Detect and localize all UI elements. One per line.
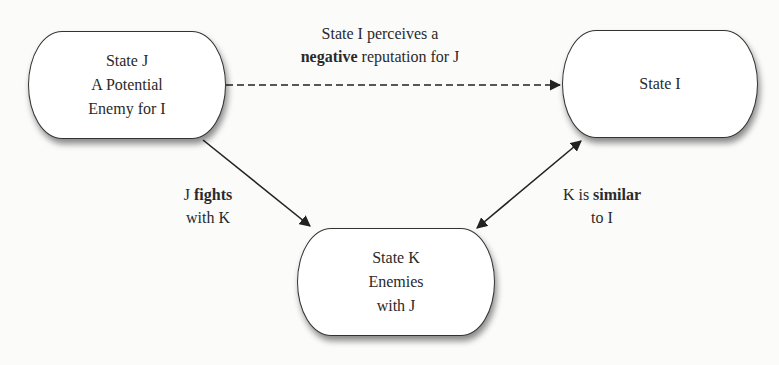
edge-label-j-to-k-line-2: with K <box>168 206 248 229</box>
edge-label-fights: fights <box>194 186 232 203</box>
edge-label-k-i-line-2: to I <box>547 206 657 229</box>
node-state-k: State K Enemies with J <box>297 228 495 336</box>
edge-label-k-i-line-1: K is similar <box>547 183 657 206</box>
edge-label-k-prefix: K is <box>563 186 593 203</box>
edge-label-j-prefix: J <box>184 186 194 203</box>
edge-label-k-i: K is similar to I <box>547 183 657 229</box>
edge-label-j-to-k: J fights with K <box>168 183 248 229</box>
edge-label-j-to-i-line-2: negative reputation for J <box>270 45 490 68</box>
node-k-line-3: with J <box>377 294 416 318</box>
node-k-line-2: Enemies <box>368 270 423 294</box>
edge-label-j-to-k-line-1: J fights <box>168 183 248 206</box>
edge-label-j-to-i-rest: reputation for J <box>358 48 460 65</box>
edge-label-similar: similar <box>593 186 641 203</box>
edge-label-j-to-i-line-1: State I perceives a <box>270 22 490 45</box>
node-j-line-2: A Potential <box>91 73 163 97</box>
node-i-line-1: State I <box>639 72 680 96</box>
node-j-line-3: Enemy for I <box>88 97 165 121</box>
edge-label-negative: negative <box>301 48 358 65</box>
node-state-j: State J A Potential Enemy for I <box>28 31 226 139</box>
node-k-line-1: State K <box>372 246 420 270</box>
edge-label-j-to-i: State I perceives a negative reputation … <box>270 22 490 68</box>
node-j-line-1: State J <box>106 49 148 73</box>
node-state-i: State I <box>562 30 758 138</box>
